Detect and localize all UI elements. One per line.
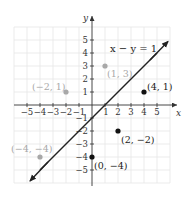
- svg-text:3: 3: [128, 107, 133, 117]
- svg-text:−4: −4: [34, 107, 47, 117]
- svg-text:−5: −5: [75, 165, 88, 175]
- point-4-1: [141, 89, 146, 94]
- point-label-neg4-neg4: (−4, −4): [11, 143, 52, 154]
- coordinate-plane: x y −5 −4 −3 −2 −1 1 2 3 4 5: [0, 0, 190, 206]
- svg-text:3: 3: [83, 61, 88, 71]
- point-label-2-neg2: (2, −2): [121, 134, 155, 145]
- svg-text:−3: −3: [47, 107, 60, 117]
- svg-text:−3: −3: [75, 139, 88, 149]
- svg-text:−1: −1: [75, 113, 88, 123]
- svg-text:1: 1: [103, 107, 108, 117]
- point-label-0-neg4: (0, −4): [94, 160, 128, 171]
- svg-text:2: 2: [115, 107, 120, 117]
- point-label-4-1: (4, 1): [147, 81, 173, 92]
- point-2-neg2: [115, 128, 120, 133]
- point-label-1-3: (1, 3): [107, 68, 133, 79]
- svg-text:2: 2: [83, 74, 88, 84]
- point-neg4-neg4: [37, 154, 42, 159]
- y-axis-label: y: [82, 13, 89, 23]
- svg-text:−2: −2: [60, 107, 73, 117]
- svg-text:4: 4: [141, 107, 146, 117]
- x-axis-label: x: [176, 108, 181, 118]
- svg-text:−5: −5: [21, 107, 34, 117]
- line-arrow-lower: [30, 162, 48, 181]
- equation-label: x − y = 1: [110, 43, 157, 54]
- point-label-neg2-1: (−2, 1): [32, 81, 66, 92]
- svg-text:5: 5: [83, 35, 88, 45]
- point-0-neg4: [89, 154, 94, 159]
- x-tick-labels: −5 −4 −3 −2 −1 1 2 3 4 5: [21, 107, 160, 117]
- svg-text:4: 4: [83, 48, 88, 58]
- svg-text:−4: −4: [75, 152, 88, 162]
- svg-text:1: 1: [83, 87, 88, 97]
- svg-text:5: 5: [154, 107, 159, 117]
